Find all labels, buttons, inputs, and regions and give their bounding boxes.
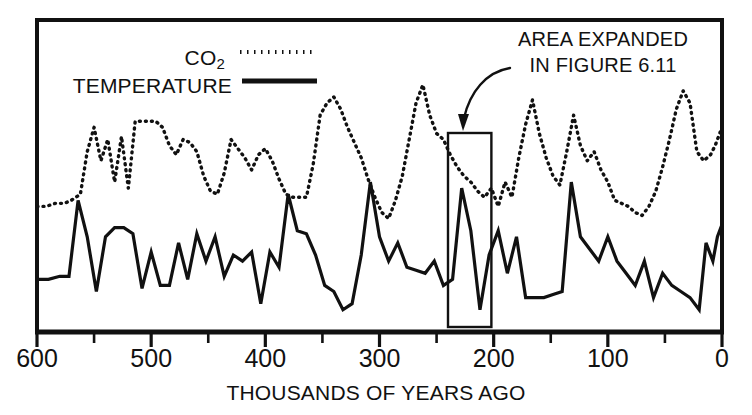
x-axis-tick-label-300: 300 [359,344,401,373]
figure-container: CO2 TEMPERATURE AREA EXPANDED IN FIGURE … [0,0,752,415]
x-axis-tick-label-100: 100 [587,344,629,373]
annotation-text-line-1: AREA EXPANDED [518,28,688,51]
legend-label-co2-text: CO [185,46,217,69]
x-axis-tick-label-200: 200 [473,344,515,373]
x-axis-tick-label-400: 400 [244,344,286,373]
x-axis-tick-label-500: 500 [130,344,172,373]
data-series-layer [37,85,722,310]
annotation-text-line-2: IN FIGURE 6.11 [530,54,677,77]
legend-label-temperature: TEMPERATURE [73,74,232,98]
annotation-arrow [458,68,510,131]
legend-label-co2-subscript: 2 [216,55,225,72]
co2-series-line [37,85,722,219]
x-axis-tick-label-0: 0 [715,344,729,373]
legend-swatches [240,52,317,81]
legend-label-co2: CO2 [185,46,225,70]
temperature-series-line [37,182,722,310]
x-axis-title: THOUSANDS OF YEARS AGO [226,381,525,405]
arrow-head-icon [458,114,469,131]
x-axis-tick-label-600: 600 [16,344,58,373]
